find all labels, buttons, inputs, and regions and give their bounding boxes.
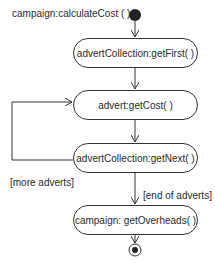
action-get-overheads: campaign: getOverheads( ) — [73, 205, 198, 235]
action-get-first: advertCollection:getFirst( ) — [73, 38, 198, 68]
diagram-title: campaign:calculateCost ( ) — [12, 8, 130, 19]
initial-node-icon — [129, 9, 141, 21]
guard-more-adverts: [more adverts] — [10, 177, 74, 188]
action-get-next: advertCollection:getNext( ) — [73, 143, 198, 173]
final-node-icon — [129, 244, 141, 256]
guard-end-of-adverts: [end of adverts] — [143, 190, 212, 201]
action-get-cost: advert:getCost( ) — [73, 90, 198, 120]
edge-getnext-getcost-loop — [12, 102, 73, 160]
